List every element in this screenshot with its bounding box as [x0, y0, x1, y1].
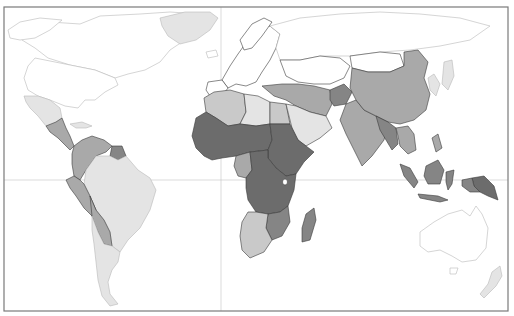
choropleth-map-svg — [0, 0, 514, 316]
region-lake-victoria — [283, 179, 288, 185]
world-map — [0, 0, 514, 316]
region-mongolia — [350, 52, 404, 72]
